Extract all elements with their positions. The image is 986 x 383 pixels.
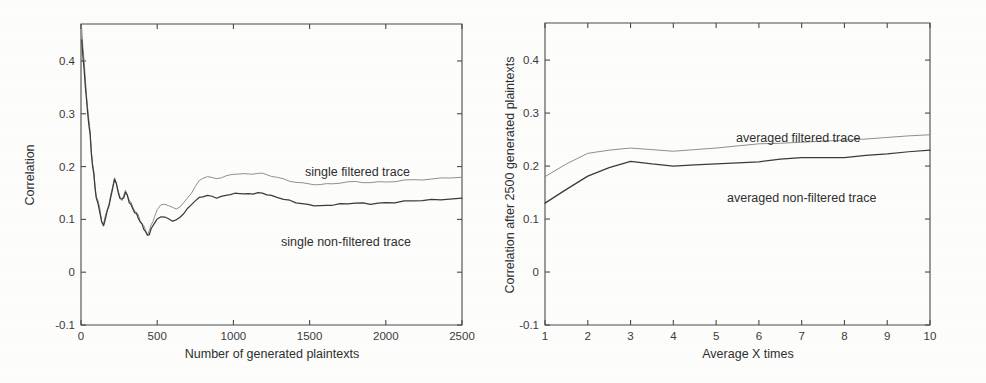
x-tick-label: 3 bbox=[627, 330, 633, 342]
right-x-tick-labels: 12345678910 bbox=[542, 330, 937, 342]
x-tick-label: 8 bbox=[841, 330, 847, 342]
y-tick-label: 0.3 bbox=[523, 107, 539, 119]
y-tick-label: 0.2 bbox=[523, 160, 539, 172]
x-tick-label: 2 bbox=[585, 330, 591, 342]
right-y-tick-labels: -0.100.10.20.30.4 bbox=[519, 54, 539, 331]
y-tick-label: -0.1 bbox=[519, 319, 539, 331]
series-line-single-filtered-trace bbox=[82, 29, 462, 235]
right-x-tick-group bbox=[545, 23, 930, 325]
left-x-tick-labels: 05001000150020002500 bbox=[78, 330, 475, 342]
x-tick-label: 1 bbox=[542, 330, 548, 342]
left-y-tick-labels: -0.100.10.20.30.4 bbox=[55, 55, 75, 331]
x-tick-label: 2500 bbox=[449, 330, 475, 342]
y-tick-label: 0.3 bbox=[59, 108, 75, 120]
series-line-single-non-filtered-trace bbox=[82, 40, 462, 235]
x-tick-label: 9 bbox=[884, 330, 890, 342]
y-tick-label: 0.2 bbox=[59, 161, 75, 173]
x-tick-label: 10 bbox=[924, 330, 937, 342]
left-curve-group bbox=[82, 29, 462, 235]
x-tick-label: 4 bbox=[670, 330, 677, 342]
x-tick-label: 1500 bbox=[297, 330, 323, 342]
left-y-tick-group bbox=[81, 61, 462, 325]
left-series-label-filtered: single filtered trace bbox=[305, 165, 410, 179]
y-tick-label: 0.1 bbox=[59, 213, 75, 225]
x-tick-label: 6 bbox=[756, 330, 762, 342]
left-series-label-nonfiltered: single non-filtered trace bbox=[281, 235, 411, 249]
x-tick-label: 0 bbox=[78, 330, 84, 342]
x-tick-label: 1000 bbox=[221, 330, 247, 342]
y-tick-label: 0.4 bbox=[523, 54, 540, 66]
x-tick-label: 5 bbox=[713, 330, 719, 342]
y-tick-label: 0.4 bbox=[59, 55, 76, 67]
right-y-axis-title: Correlation after 2500 generated plainte… bbox=[503, 57, 517, 294]
x-tick-label: 2000 bbox=[373, 330, 399, 342]
y-tick-label: 0.1 bbox=[523, 213, 539, 225]
y-tick-label: 0 bbox=[533, 266, 539, 278]
chart-panel-right: 12345678910 -0.100.10.20.30.4 Average X … bbox=[493, 0, 986, 383]
right-x-axis-title: Average X times bbox=[702, 347, 793, 361]
right-series-label-nonfiltered: averaged non-filtered trace bbox=[727, 191, 876, 205]
left-y-axis-title: Correlation bbox=[23, 144, 37, 205]
right-plot-svg: 12345678910 -0.100.10.20.30.4 Average X … bbox=[493, 0, 986, 383]
left-x-axis-title: Number of generated plaintexts bbox=[185, 347, 359, 361]
right-axis-box bbox=[545, 23, 930, 325]
y-tick-label: -0.1 bbox=[55, 319, 75, 331]
x-tick-label: 7 bbox=[798, 330, 804, 342]
right-axes bbox=[545, 23, 930, 325]
chart-panel-left: 05001000150020002500 -0.100.10.20.30.4 N… bbox=[0, 0, 493, 383]
left-plot-svg: 05001000150020002500 -0.100.10.20.30.4 N… bbox=[0, 0, 493, 383]
right-series-label-filtered: averaged filtered trace bbox=[736, 131, 860, 145]
y-tick-label: 0 bbox=[69, 266, 75, 278]
figure-canvas: 05001000150020002500 -0.100.10.20.30.4 N… bbox=[0, 0, 986, 383]
x-tick-label: 500 bbox=[148, 330, 167, 342]
